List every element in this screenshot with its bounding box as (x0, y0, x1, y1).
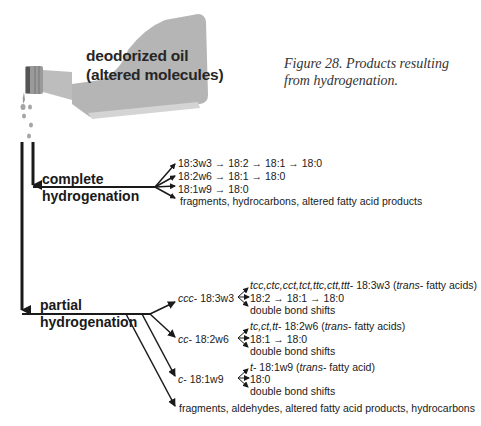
trans-name: - 18:3w3 ( (350, 279, 397, 291)
partial-trans-18-3w3: tcc,ctc,cct,tct,ttc,ctt,ttt- 18:3w3 (tra… (250, 279, 477, 291)
complete-product-1: 18:3w3 → 18:2 → 18:1 → 18:0 (178, 157, 322, 169)
complete-label-line1: complete (42, 171, 139, 188)
fatty-acid-name: - 18:2w6 (189, 333, 229, 345)
partial-other-products: fragments, aldehydes, altered fatty acid… (179, 402, 475, 414)
bottle-label-line2: (altered molecules) (86, 65, 223, 84)
isomer-prefix: cc (178, 333, 189, 345)
caption-line1: Figure 28. Products resulting (284, 55, 449, 72)
trans-word: trans (325, 320, 348, 332)
partial-shifts-18-1w9: double bond shifts (250, 385, 335, 397)
partial-shifts-18-2w6: double bond shifts (250, 345, 335, 357)
trans-tail: - fatty acids) (420, 279, 477, 291)
complete-hydrogenation-label: complete hydrogenation (42, 171, 139, 205)
trans-word: trans (300, 361, 323, 373)
complete-label-line2: hydrogenation (42, 188, 139, 205)
partial-trans-18-2w6: tc,ct,tt- 18:2w6 (trans- fatty acids) (250, 320, 405, 332)
partial-source-18-2w6: cc- 18:2w6 (178, 333, 229, 345)
trans-word: trans (396, 279, 419, 291)
partial-chain-18-3w3: 18:2 → 18:1 → 18:0 (250, 292, 344, 304)
bottle-label-line1: deodorized oil (86, 46, 223, 65)
partial-source-18-3w3: ccc- 18:3w3 (178, 292, 234, 304)
trans-name: - 18:1w9 ( (253, 361, 300, 373)
partial-label-line2: hydrogenation (40, 314, 137, 331)
complete-product-3: 18:1w9 → 18:0 (178, 183, 249, 195)
partial-chain-18-2w6: 18:1 → 18:0 (250, 333, 307, 345)
fatty-acid-name: - 18:3w3 (194, 292, 234, 304)
partial-hydrogenation-label: partial hydrogenation (40, 297, 137, 331)
trans-isomers: tc,ct,tt (250, 320, 278, 332)
complete-product-2: 18:2w6 → 18:1 → 18:0 (178, 170, 285, 182)
bottle-label: deodorized oil (altered molecules) (86, 46, 223, 84)
figure-caption: Figure 28. Products resulting from hydro… (284, 55, 449, 89)
trans-tail: - fatty acid) (323, 361, 375, 373)
partial-trans-18-1w9: t- 18:1w9 (trans- fatty acid) (250, 361, 375, 373)
partial-chain-18-1w9: 18:0 (250, 373, 270, 385)
isomer-prefix: ccc (178, 292, 194, 304)
trans-isomers: tcc,ctc,cct,tct,ttc,ctt,ttt (250, 279, 350, 291)
trans-name: - 18:2w6 ( (278, 320, 325, 332)
partial-label-line1: partial (40, 297, 137, 314)
fatty-acid-name: - 18:1w9 (183, 373, 223, 385)
trans-tail: - fatty acids) (348, 320, 405, 332)
complete-product-4: fragments, hydrocarbons, altered fatty a… (180, 195, 422, 207)
partial-source-18-1w9: c- 18:1w9 (178, 373, 224, 385)
partial-shifts-18-3w3: double bond shifts (250, 304, 335, 316)
caption-line2: from hydrogenation. (284, 72, 449, 89)
